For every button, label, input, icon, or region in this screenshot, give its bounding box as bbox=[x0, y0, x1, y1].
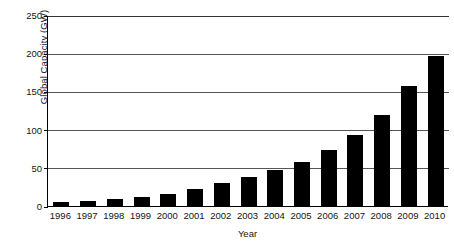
y-axis-tick-mark bbox=[44, 168, 48, 169]
bar bbox=[80, 201, 96, 207]
bar-series bbox=[48, 16, 449, 207]
bar bbox=[134, 197, 150, 207]
bar bbox=[187, 189, 203, 207]
bar bbox=[294, 162, 310, 207]
x-axis-tick-label: 2010 bbox=[421, 210, 448, 222]
y-axis-tick-label: 0 bbox=[14, 202, 42, 212]
x-axis-tick-label: 2007 bbox=[341, 210, 368, 222]
x-axis-title: Year bbox=[47, 228, 448, 240]
plot-area bbox=[47, 16, 448, 207]
bar bbox=[401, 86, 417, 207]
x-axis-tick-label: 2000 bbox=[154, 210, 181, 222]
y-axis-tick-mark bbox=[44, 130, 48, 131]
x-axis-tick-label: 2008 bbox=[368, 210, 395, 222]
x-axis-tick-label: 1996 bbox=[47, 210, 74, 222]
x-axis-tick-label: 2006 bbox=[314, 210, 341, 222]
x-axis-tick-label: 1997 bbox=[74, 210, 101, 222]
x-axis-tick-label: 2003 bbox=[234, 210, 261, 222]
bar bbox=[347, 135, 363, 207]
x-axis-tick-label: 1999 bbox=[127, 210, 154, 222]
y-axis-tick-label: 200 bbox=[14, 49, 42, 59]
x-axis-tick-label: 2001 bbox=[181, 210, 208, 222]
bar bbox=[214, 183, 230, 207]
x-axis-tick-label: 1998 bbox=[100, 210, 127, 222]
bar bbox=[107, 199, 123, 207]
bar-chart-figure: Global Capacity (GW) 050100150200250 199… bbox=[0, 0, 454, 251]
y-axis-tick-label: 150 bbox=[14, 87, 42, 97]
y-axis-tick-mark bbox=[44, 16, 48, 17]
y-axis-tick-label: 100 bbox=[14, 126, 42, 136]
y-axis-tick-mark bbox=[44, 54, 48, 55]
bar bbox=[321, 150, 337, 207]
y-axis-tick-mark bbox=[44, 92, 48, 93]
y-axis-tick-mark bbox=[44, 207, 48, 208]
y-axis-tick-label: 250 bbox=[14, 11, 42, 21]
x-axis-tick-labels: 1996199719981999200020012002200320042005… bbox=[47, 210, 448, 224]
x-axis-tick-label: 2009 bbox=[395, 210, 422, 222]
y-axis-tick-labels: 050100150200250 bbox=[14, 0, 42, 251]
y-axis-tick-label: 50 bbox=[14, 164, 42, 174]
bar bbox=[267, 170, 283, 207]
bar bbox=[241, 177, 257, 207]
x-axis-tick-label: 2004 bbox=[261, 210, 288, 222]
bar bbox=[53, 202, 69, 207]
x-axis-tick-label: 2005 bbox=[288, 210, 315, 222]
bar bbox=[160, 194, 176, 207]
x-axis-tick-label: 2002 bbox=[207, 210, 234, 222]
bar bbox=[428, 56, 444, 207]
bar bbox=[374, 115, 390, 207]
